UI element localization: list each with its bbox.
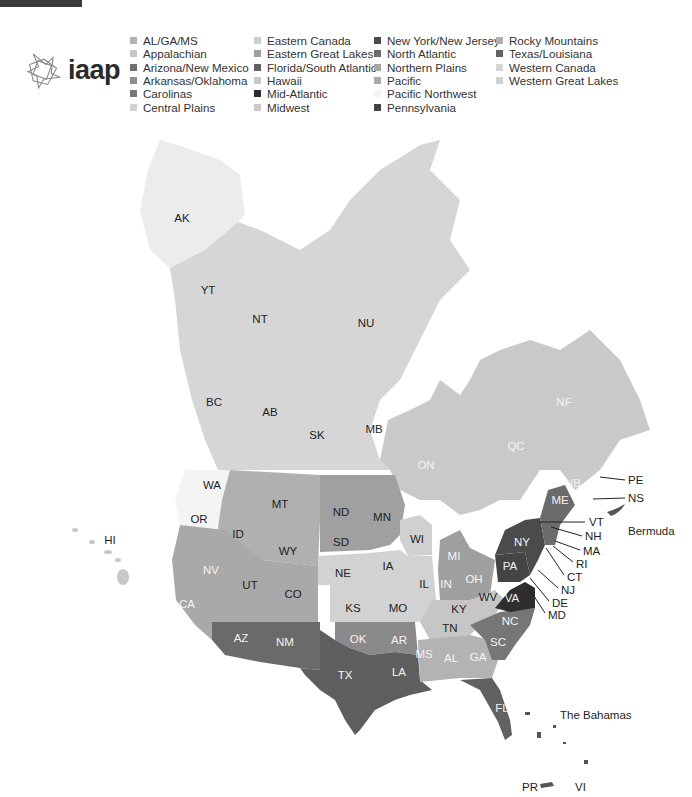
state-label: SD xyxy=(333,536,349,548)
state-label: IA xyxy=(383,560,394,572)
state-label: IL xyxy=(419,578,429,590)
state-label: MS xyxy=(415,648,432,660)
state-label: LA xyxy=(392,666,406,678)
callout-line xyxy=(538,570,558,588)
state-label: SK xyxy=(309,429,324,441)
state-label: ID xyxy=(232,528,244,540)
state-label: OK xyxy=(350,633,367,645)
place-label: The Bahamas xyxy=(560,709,632,721)
state-label: ON xyxy=(417,459,434,471)
bermuda-island xyxy=(607,504,625,516)
callout-label: VT xyxy=(589,516,604,528)
state-label: AK xyxy=(174,212,189,224)
callout-line xyxy=(555,541,580,550)
place-label: VI xyxy=(575,781,586,793)
callout-label: PE xyxy=(628,474,643,486)
state-label: WA xyxy=(203,479,221,491)
state-label: TX xyxy=(338,669,353,681)
state-label: MB xyxy=(365,423,382,435)
callout-label: MD xyxy=(548,609,566,621)
region-hawaii xyxy=(72,528,129,585)
region-eastern-canada xyxy=(380,330,650,515)
state-label: MO xyxy=(389,602,408,614)
puerto-rico-island xyxy=(540,782,554,788)
state-label: NB xyxy=(565,477,581,489)
state-label: WV xyxy=(479,591,498,603)
state-label: AL xyxy=(444,652,458,664)
state-label: BC xyxy=(206,396,222,408)
callout-line xyxy=(553,546,573,562)
callout-label: MA xyxy=(583,545,600,557)
state-label: MT xyxy=(272,498,289,510)
state-label: YT xyxy=(201,284,216,296)
callout-label: NS xyxy=(628,492,644,504)
state-label: GA xyxy=(470,651,487,663)
state-label: HI xyxy=(104,534,116,546)
state-label: AR xyxy=(391,634,407,646)
state-label: KS xyxy=(345,602,360,614)
callout-line xyxy=(593,498,625,499)
state-label: QC xyxy=(507,440,524,452)
callout-label: DE xyxy=(552,597,568,609)
region-arizona-new-mexico xyxy=(212,622,320,670)
callout-label: NH xyxy=(585,530,602,542)
state-label: OH xyxy=(465,573,482,585)
state-label: MI xyxy=(448,550,461,562)
state-label: AZ xyxy=(234,632,249,644)
state-label: OR xyxy=(190,513,207,525)
state-label: WY xyxy=(279,545,298,557)
state-label: NM xyxy=(276,636,294,648)
state-label: IN xyxy=(440,578,452,590)
callout-label: NJ xyxy=(561,584,575,596)
state-label: CA xyxy=(179,598,195,610)
state-label: KY xyxy=(451,603,466,615)
state-label: FL xyxy=(495,702,508,714)
place-label: PR xyxy=(522,781,538,793)
state-label: NE xyxy=(335,567,351,579)
state-label: NV xyxy=(203,564,219,576)
state-label: WI xyxy=(410,533,424,545)
state-label: SC xyxy=(490,636,506,648)
state-label: UT xyxy=(242,579,257,591)
callout-label: RI xyxy=(576,558,588,570)
state-label: TN xyxy=(442,622,457,634)
state-label: NC xyxy=(502,615,519,627)
state-label: NY xyxy=(514,536,530,548)
state-label: NT xyxy=(252,313,267,325)
place-label: Bermuda xyxy=(628,525,675,537)
state-label: CO xyxy=(284,588,301,600)
state-label: ME xyxy=(551,494,568,506)
state-label: NU xyxy=(358,317,375,329)
callout-label: CT xyxy=(567,571,582,583)
state-label: ND xyxy=(333,506,350,518)
state-label: PA xyxy=(503,560,518,572)
state-label: VA xyxy=(505,592,520,604)
state-label: MN xyxy=(373,511,391,523)
state-label: NF xyxy=(556,396,571,408)
callout-line xyxy=(600,477,625,480)
state-label: AB xyxy=(262,406,277,418)
